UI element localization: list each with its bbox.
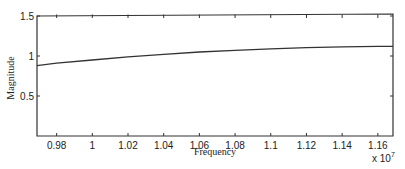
x-tick-label: 1.1 (264, 140, 278, 151)
x-tick-label: 1 (90, 140, 96, 151)
x-tick-label: 1.16 (368, 140, 388, 151)
y-axis-ticks: 0.511.5 (20, 11, 393, 102)
y-tick-label: 1.5 (20, 11, 34, 22)
x-multiplier-exponent: 7 (391, 151, 395, 158)
x-axis-multiplier: x 107 (372, 151, 395, 164)
series-line (37, 46, 393, 65)
x-tick-label: 1.02 (118, 140, 138, 151)
y-tick-label: 1 (28, 51, 34, 62)
x-axis-label: Frequency (194, 146, 236, 157)
x-axis-ticks: 0.9811.021.041.061.081.11.121.141.16 (47, 15, 388, 152)
x-multiplier-base: x 10 (372, 153, 391, 164)
axes-box (37, 14, 393, 136)
plot-area (37, 14, 393, 136)
y-tick-label: 0.5 (20, 91, 34, 102)
y-axis-label: Magnitude (5, 56, 16, 100)
x-tick-label: 1.14 (332, 140, 352, 151)
x-tick-label: 0.98 (47, 140, 67, 151)
x-tick-label: 1.04 (154, 140, 174, 151)
magnitude-chart: 0.9811.021.041.061.081.11.121.141.16 0.5… (0, 0, 405, 169)
x-tick-label: 1.12 (297, 140, 317, 151)
